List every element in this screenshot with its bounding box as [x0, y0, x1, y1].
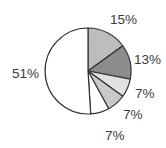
slice-label: 7%	[123, 107, 143, 122]
slice-label: 7%	[105, 128, 125, 143]
slice-label: 13%	[134, 52, 161, 67]
pie-slice	[45, 28, 91, 114]
slice-label: 15%	[110, 12, 137, 27]
pie-chart: 15%13%7%7%7%51%	[0, 0, 166, 148]
slice-label: 51%	[12, 66, 39, 81]
slice-label: 7%	[135, 86, 155, 101]
pie-chart-svg: 15%13%7%7%7%51%	[0, 0, 166, 148]
